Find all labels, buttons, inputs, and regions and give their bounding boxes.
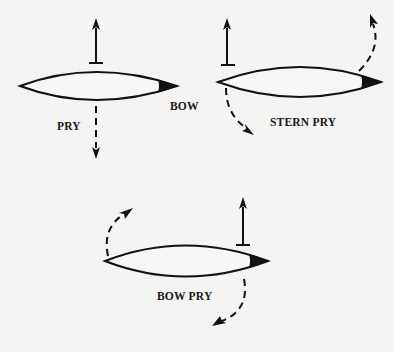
canoe-hull xyxy=(20,72,177,100)
panel-bow-pry xyxy=(105,197,268,326)
label-stern-pry: STERN PRY xyxy=(270,116,336,128)
pry-strokes-diagram: PRY BOW STERN PRY BOW PRY xyxy=(0,0,394,352)
label-bow-pry: BOW PRY xyxy=(157,290,212,302)
dashed-arrow-down-icon xyxy=(92,106,100,159)
dashed-curve-bow-down-icon xyxy=(212,279,245,326)
force-arrow-up-icon xyxy=(89,18,103,63)
panel-pry xyxy=(20,18,177,159)
canoe-hull xyxy=(105,246,268,277)
force-arrow-up-icon xyxy=(221,18,235,65)
label-pry: PRY xyxy=(57,120,81,132)
bow-marker xyxy=(249,254,268,268)
label-bow: BOW xyxy=(170,100,199,112)
canoe-hull xyxy=(218,67,381,97)
dashed-curve-bow-up-icon xyxy=(359,14,378,71)
force-arrow-up-icon xyxy=(236,197,250,245)
bow-marker xyxy=(158,80,177,93)
bow-marker xyxy=(361,75,381,89)
dashed-curve-stern-up-icon xyxy=(107,208,133,256)
dashed-curve-stern-down-icon xyxy=(226,88,254,135)
